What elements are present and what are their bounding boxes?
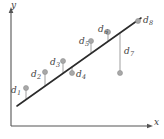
residual-label-d6: d6 [98, 25, 108, 34]
residual-label-subscript: 2 [37, 73, 41, 81]
residual-label-d2: d2 [31, 70, 41, 79]
regression-line [17, 18, 141, 106]
regression-line-segment [17, 18, 141, 106]
residual-label-d4: d4 [76, 70, 86, 79]
residual-label-subscript: 4 [82, 73, 86, 81]
y-axis-label: y [11, 1, 16, 10]
residual-label-base: d [76, 69, 82, 79]
residual-label-base: d [143, 15, 149, 25]
data-point-d2 [43, 70, 48, 75]
x-axis-arrowhead [147, 124, 153, 129]
residual-label-base: d [31, 69, 37, 79]
data-point-d5 [89, 39, 94, 44]
data-point-d4 [70, 71, 75, 76]
residual-label-subscript: 6 [104, 28, 108, 36]
data-point-d3 [61, 59, 66, 64]
residual-label-subscript: 7 [130, 50, 134, 58]
residual-label-base: d [124, 46, 130, 56]
residual-label-d1: d1 [11, 86, 21, 95]
residual-label-subscript: 5 [85, 40, 89, 48]
residual-label-d7: d7 [124, 47, 134, 56]
x-axis-label: x [154, 118, 159, 127]
residual-label-d5: d5 [79, 37, 89, 46]
residual-label-base: d [98, 24, 104, 34]
residual-label-base: d [50, 57, 56, 67]
residual-scatter-figure: y x d1d2d3d4d5d6d7d8 [0, 0, 164, 139]
residual-label-base: d [79, 36, 85, 46]
residual-label-base: d [11, 85, 17, 95]
residual-label-subscript: 1 [17, 89, 21, 97]
residual-label-d8: d8 [143, 16, 153, 25]
data-point-d7 [118, 71, 123, 76]
data-point-d8 [136, 19, 141, 24]
residual-label-subscript: 8 [149, 19, 153, 27]
residual-label-d3: d3 [50, 58, 60, 67]
residual-label-subscript: 3 [56, 61, 60, 69]
data-point-d1 [24, 86, 29, 91]
